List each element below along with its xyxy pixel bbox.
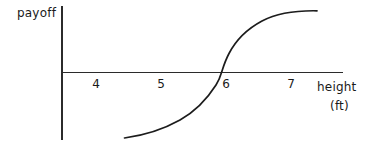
x-axis-units-label: (ft) xyxy=(330,100,349,112)
plot-canvas xyxy=(0,0,368,148)
y-axis-title: payoff xyxy=(17,7,56,19)
payoff-height-figure: payoff height (ft) 4 5 6 7 xyxy=(0,0,368,148)
x-axis-title: height xyxy=(317,81,356,93)
x-tick-label-6: 6 xyxy=(219,78,233,90)
x-tick-label-7: 7 xyxy=(284,78,298,90)
payoff-curve-line xyxy=(125,11,318,138)
x-tick-label-4: 4 xyxy=(89,78,103,90)
x-tick-label-5: 5 xyxy=(154,78,168,90)
